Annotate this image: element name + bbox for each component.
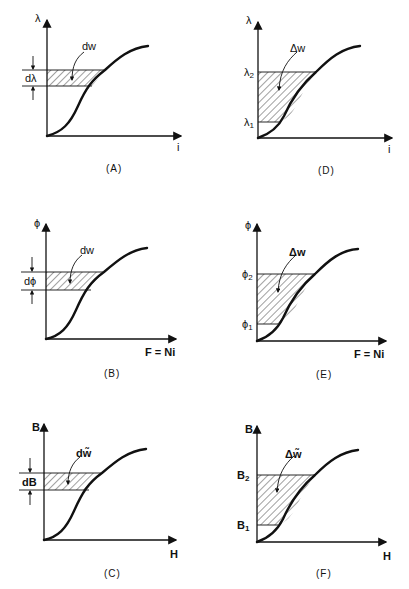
y-axis-label: λ — [246, 14, 252, 26]
lower-level-label: λ1 — [244, 116, 255, 130]
panel-caption: (C) — [104, 568, 121, 579]
hatched-area-dw — [46, 272, 104, 290]
panel-caption: (B) — [104, 368, 120, 379]
panel-d: Δw λ2 λ1 λ i (D) — [244, 14, 392, 176]
x-axis-label: F = Ni — [354, 348, 384, 360]
x-axis-label: F = Ni — [145, 346, 175, 358]
panel-a: dw dλ λ i (A) — [22, 12, 181, 174]
y-axis-label: ϕ — [34, 217, 40, 229]
upper-level-label: λ2 — [244, 66, 255, 80]
x-axis-label: H — [170, 548, 178, 560]
area-label: dw — [80, 244, 94, 256]
lower-level-label: B1 — [237, 519, 250, 533]
upper-level-label: ϕ2 — [242, 268, 253, 282]
panel-f: Δw̃ B2 B1 B H (F) — [237, 423, 391, 579]
magnetization-curve — [44, 449, 146, 540]
area-label: Δw̃ — [285, 448, 302, 460]
band-label: dϕ — [24, 275, 36, 287]
area-label: dw̃ — [76, 447, 92, 459]
band-label: dλ — [25, 72, 37, 84]
x-axis-label: i — [177, 141, 179, 153]
y-axis-label: B — [245, 423, 253, 435]
upper-level-label: B2 — [237, 469, 250, 483]
panel-caption: (E) — [316, 369, 332, 380]
magnetization-curve — [46, 248, 147, 339]
x-axis-label: i — [388, 143, 390, 155]
panel-b: dw dϕ ϕ F = Ni (B) — [21, 217, 176, 379]
panel-caption: (F) — [316, 568, 332, 579]
panel-caption: (A) — [106, 163, 122, 174]
area-label: Δw — [290, 42, 305, 54]
magnetization-curve — [47, 46, 148, 136]
area-label: Δw — [289, 246, 306, 258]
panel-caption: (D) — [318, 165, 335, 176]
panel-e: Δw ϕ2 ϕ1 ϕ F = Ni (E) — [242, 219, 386, 380]
x-axis-label: H — [383, 550, 391, 562]
y-axis-label: B — [32, 421, 40, 433]
y-axis-label: λ — [35, 12, 41, 24]
area-label: dw — [82, 40, 96, 52]
figure-canvas: dw dλ λ i (A) Δw λ2 λ1 λ i (D) dw dϕ ϕ F… — [0, 0, 409, 589]
panel-c: dw̃ dB B H (C) — [19, 421, 178, 579]
band-label: dB — [22, 476, 37, 488]
y-axis-label: ϕ — [245, 219, 251, 231]
lower-level-label: ϕ1 — [242, 318, 253, 332]
